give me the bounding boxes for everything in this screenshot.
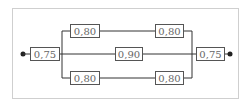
middle-block: 0,90 xyxy=(115,47,143,61)
top-block-1: 0,80 xyxy=(70,24,100,38)
bottom-block-1: 0,80 xyxy=(70,71,100,85)
top-block-2: 0,80 xyxy=(155,24,184,38)
input-block: 0,75 xyxy=(30,47,60,61)
output-terminal-dot xyxy=(228,52,233,57)
output-block: 0,75 xyxy=(196,47,225,61)
bottom-block-2: 0,80 xyxy=(155,71,184,85)
